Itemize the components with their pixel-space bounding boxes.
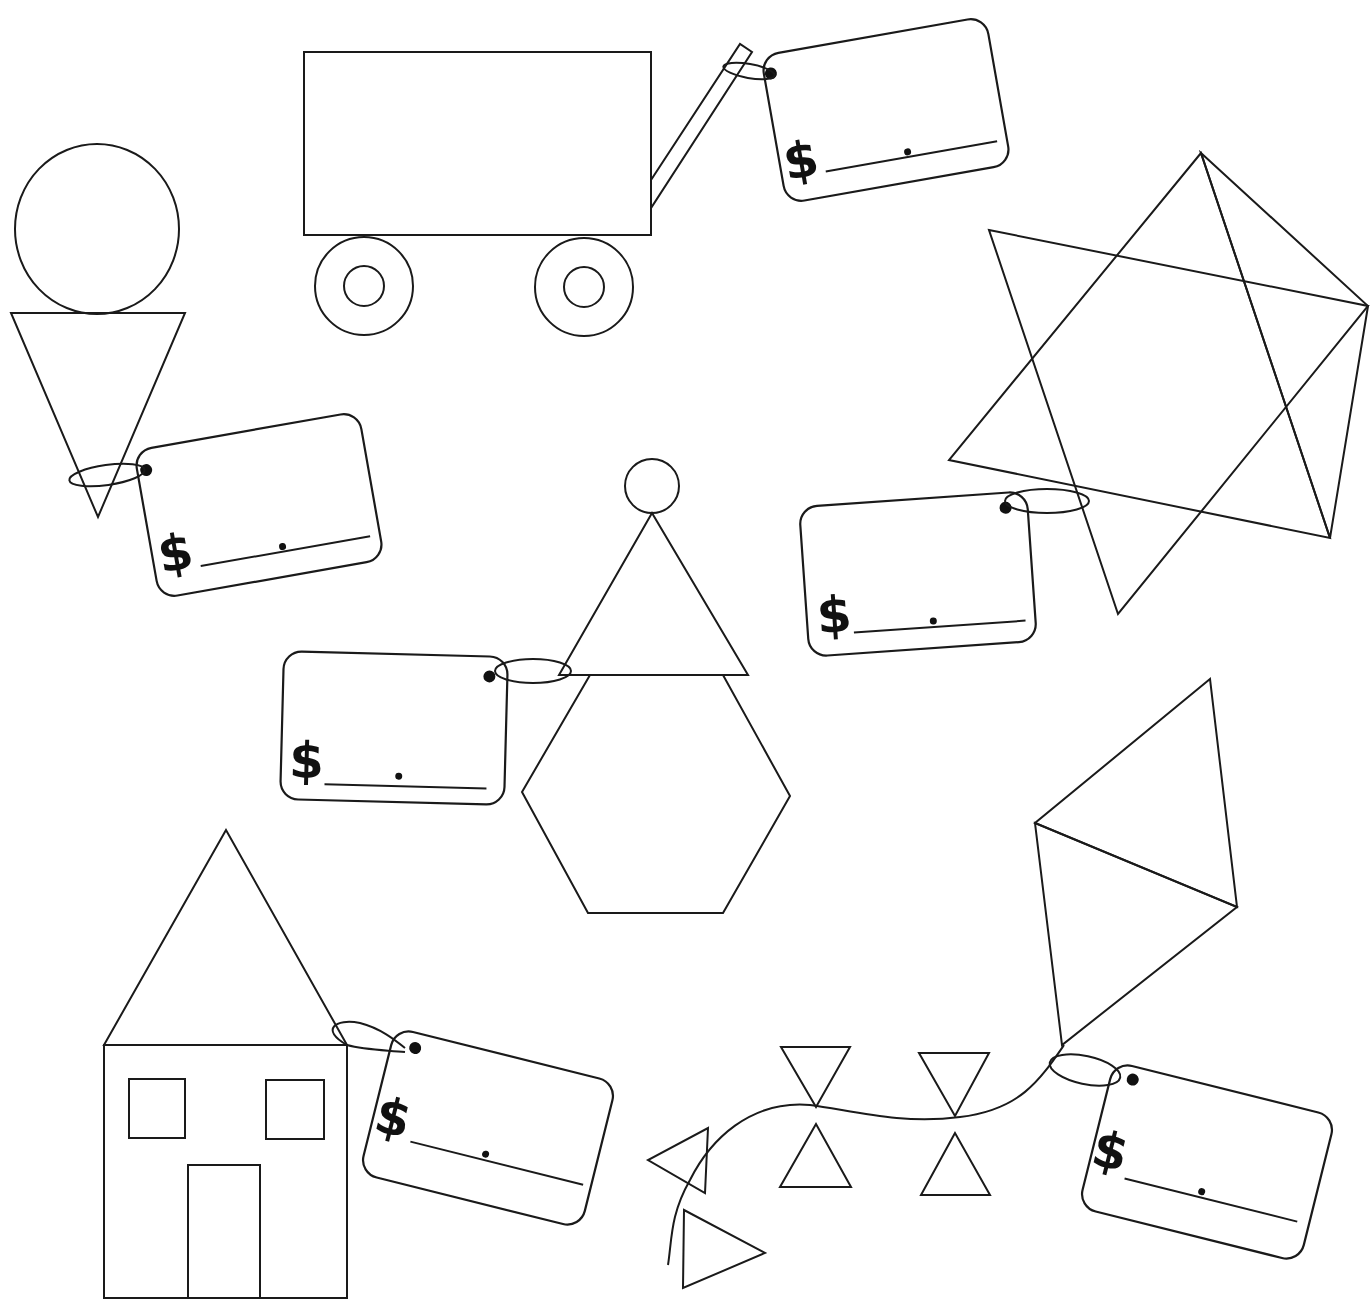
price-tag-wagon[interactable]: $ bbox=[761, 16, 1012, 203]
tail-bow-2-bottom-triangle-shape bbox=[921, 1133, 990, 1195]
tail-bow-3-left-triangle-shape bbox=[648, 1128, 708, 1193]
wagon-rear-wheel-shape bbox=[535, 238, 633, 336]
tail-bow-2-top-triangle-shape bbox=[919, 1053, 989, 1116]
wagon-body-rectangle-shape bbox=[304, 52, 651, 235]
wagon-figure bbox=[304, 44, 752, 336]
wagon-front-wheel-shape bbox=[315, 237, 413, 335]
tail-bow-1-bottom-triangle-shape bbox=[780, 1124, 851, 1187]
hat-pompom-circle-shape bbox=[625, 459, 679, 513]
price-tag-house[interactable]: $ bbox=[359, 1028, 617, 1229]
wagon-front-hub-shape bbox=[344, 266, 384, 306]
hat-triangle-shape bbox=[559, 513, 748, 675]
price-tag-ice-cream-cone[interactable]: $ bbox=[134, 411, 385, 598]
kite-bottom-triangle-shape bbox=[1035, 823, 1237, 1045]
wagon-handle-shape bbox=[651, 44, 752, 208]
star-triangle-a-shape bbox=[949, 153, 1330, 538]
tail-bow-1-top-triangle-shape bbox=[781, 1047, 850, 1107]
dollar-sign-icon: $ bbox=[288, 731, 324, 790]
door-rectangle-shape bbox=[188, 1165, 260, 1298]
party-person-figure bbox=[522, 459, 790, 913]
left-window-square-shape bbox=[129, 1079, 185, 1138]
tail-bow-3-right-triangle-shape bbox=[683, 1210, 765, 1288]
dollar-sign-icon: $ bbox=[815, 585, 854, 645]
roof-triangle-shape bbox=[104, 830, 347, 1045]
tag-loop-kite bbox=[1047, 1049, 1123, 1091]
right-window-square-shape bbox=[266, 1080, 324, 1139]
kite-top-triangle-shape bbox=[1035, 679, 1237, 907]
price-tag-party-person[interactable]: $ bbox=[280, 651, 508, 805]
price-tag-star[interactable]: $ bbox=[799, 491, 1037, 657]
scoop-circle-shape bbox=[15, 144, 179, 314]
house-body-rectangle-shape bbox=[104, 1045, 347, 1298]
star-triangle-b-shape bbox=[989, 230, 1368, 614]
price-tag-kite[interactable]: $ bbox=[1078, 1062, 1336, 1263]
house-figure bbox=[104, 830, 347, 1298]
shape-price-worksheet: $ $ $ $ $ bbox=[0, 0, 1370, 1304]
wagon-rear-hub-shape bbox=[564, 267, 604, 307]
body-hexagon-shape bbox=[522, 675, 790, 913]
